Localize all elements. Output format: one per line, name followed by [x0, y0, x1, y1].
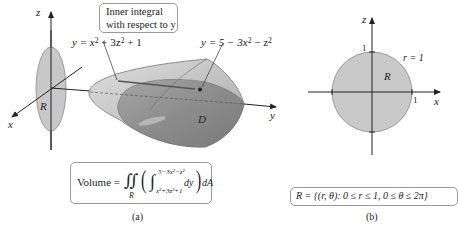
region-r-label: R	[40, 101, 47, 112]
lower-limit: x²+3z²+1	[156, 188, 182, 195]
z-axis-label: z	[36, 7, 40, 18]
volume-label: Volume =	[77, 177, 120, 188]
solid-d-label: D	[198, 114, 206, 125]
circle-label: r = 1	[403, 53, 424, 63]
x-axis-label-b: x	[434, 96, 439, 107]
region-definition: R = {(r, θ): 0 ≤ r ≤ 1, 0 ≤ θ ≤ 2π}	[296, 191, 428, 201]
inner-integral-sign: ∫	[150, 172, 155, 190]
region-r-label-b: R	[384, 71, 391, 82]
volume-formula-box: Volume = ∬ R ( ∫ 5−3x²−z² x²+3z²+1 dy ) …	[70, 162, 212, 204]
figure-b-diagram	[308, 18, 440, 155]
integral-region: R	[129, 192, 134, 200]
caption-b: (b)	[366, 212, 378, 222]
double-integral-sign: ∬	[124, 172, 138, 189]
integrand-dy: dy	[184, 178, 193, 188]
x-axis-label: x	[8, 119, 13, 130]
z-tick-1: 1	[362, 44, 367, 53]
upper-surface-equation: y = 5 − 3x2 − z2	[201, 37, 272, 48]
note-line-1: Inner integral	[106, 6, 177, 19]
region-definition-box: R = {(r, θ): 0 ≤ r ≤ 1, 0 ≤ θ ≤ 2π}	[290, 187, 458, 206]
note-line-2: with respect to y	[106, 19, 177, 32]
solid-d-lower-surface	[118, 79, 244, 147]
x-tick-1: 1	[413, 96, 418, 105]
lower-surface-equation: y = x2 + 3z2 + 1	[72, 37, 142, 48]
outer-da: dA	[202, 178, 213, 188]
upper-limit: 5−3x²−z²	[158, 169, 184, 176]
z-axis-label-b: z	[362, 14, 366, 25]
inner-integral-note: Inner integral with respect to y	[99, 3, 178, 33]
y-axis-label: y	[270, 110, 275, 121]
caption-a: (a)	[132, 212, 143, 222]
